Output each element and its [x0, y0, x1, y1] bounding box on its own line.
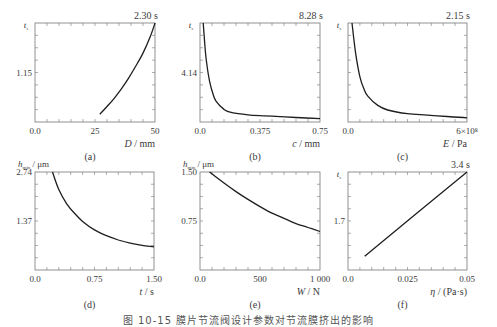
x-axis-label: c / mm [292, 138, 320, 149]
panel-label: (b) [249, 151, 261, 163]
data-series-line [100, 23, 155, 114]
panel-label: (e) [249, 299, 260, 311]
panel-label: (a) [84, 151, 95, 163]
y-tick-label: 0.75 [181, 216, 197, 226]
plot-frame [35, 23, 155, 122]
panel-label: (d) [84, 299, 96, 311]
data-series-line [53, 172, 155, 247]
y-axis-label: hmin / μm [18, 159, 49, 170]
x-tick-label: 0.0 [194, 126, 206, 136]
x-axis-label: W / N [297, 286, 320, 297]
x-tick-label: 0.0 [194, 274, 206, 284]
plot-frame [35, 172, 154, 270]
chart-panel-f: 0.00.0250.051.7ts3.4 sη / (Pa·s)(f) [334, 159, 476, 311]
x-tick-label: 0.0 [342, 274, 354, 284]
y-axis-label: ts [337, 20, 342, 31]
y-tick-label: 1.7 [334, 216, 346, 226]
x-tick-label: 1.50 [146, 274, 162, 284]
data-series-line [365, 172, 467, 256]
y-axis-label: ts [337, 169, 342, 180]
max-value-annotation: 2.15 s [446, 10, 470, 21]
y-tick-label: 1.37 [16, 216, 32, 226]
y-axis-label: ts [189, 20, 194, 31]
x-tick-label: 0.0 [29, 274, 41, 284]
x-tick-label: 25 [91, 126, 101, 136]
x-tick-label: 500 [253, 274, 267, 284]
y-axis-label: ts [24, 20, 29, 31]
chart-panel-a: 0.025501.15ts2.30 sD / mm(a) [16, 10, 160, 163]
x-tick-label: 1 000 [310, 274, 331, 284]
x-tick-label: 0.0 [342, 126, 354, 136]
x-tick-label: 6×10⁸ [456, 126, 478, 136]
plot-frame [200, 172, 320, 270]
x-axis-label: η / (Pa·s) [430, 286, 467, 298]
y-tick-label: 4.14 [181, 68, 197, 78]
chart-panel-e: 0.05001 0001.500.75hmin / μmW / N(e) [181, 159, 330, 311]
x-tick-label: 0.025 [397, 274, 418, 284]
figure-caption: 图 10-15 膜片节流阀设计参数对节流膜挤出的影响 [0, 312, 497, 327]
x-tick-label: 50 [151, 126, 161, 136]
panel-label: (c) [397, 151, 408, 163]
x-axis-label: E / Pa [442, 138, 467, 149]
data-series-line [352, 23, 467, 118]
x-axis-label: D / mm [123, 138, 155, 149]
data-series-line [203, 23, 320, 119]
plot-frame [200, 23, 320, 122]
chart-panel-b: 0.00.3750.754.14ts8.28 sc / mm(b) [181, 10, 328, 163]
chart-panel-d: 0.00.751.502.741.37hmin / μmt / s(d) [16, 159, 162, 311]
y-axis-label: hmin / μm [183, 159, 214, 170]
max-value-annotation: 8.28 s [299, 10, 323, 21]
x-tick-label: 0.75 [87, 274, 103, 284]
x-tick-label: 0.375 [250, 126, 271, 136]
max-value-annotation: 2.30 s [134, 10, 158, 21]
chart-panel-c: 0.06×10⁸ts2.15 sE / Pa(c) [337, 10, 478, 163]
max-value-annotation: 3.4 s [451, 159, 470, 170]
y-tick-label: 1.15 [16, 68, 32, 78]
plot-frame [348, 23, 467, 122]
data-series-line [210, 172, 320, 232]
x-tick-label: 0.05 [459, 274, 475, 284]
panel-label: (f) [398, 299, 408, 311]
x-axis-label: t / s [140, 286, 155, 297]
x-tick-label: 0.75 [312, 126, 328, 136]
x-tick-label: 0.0 [29, 126, 41, 136]
